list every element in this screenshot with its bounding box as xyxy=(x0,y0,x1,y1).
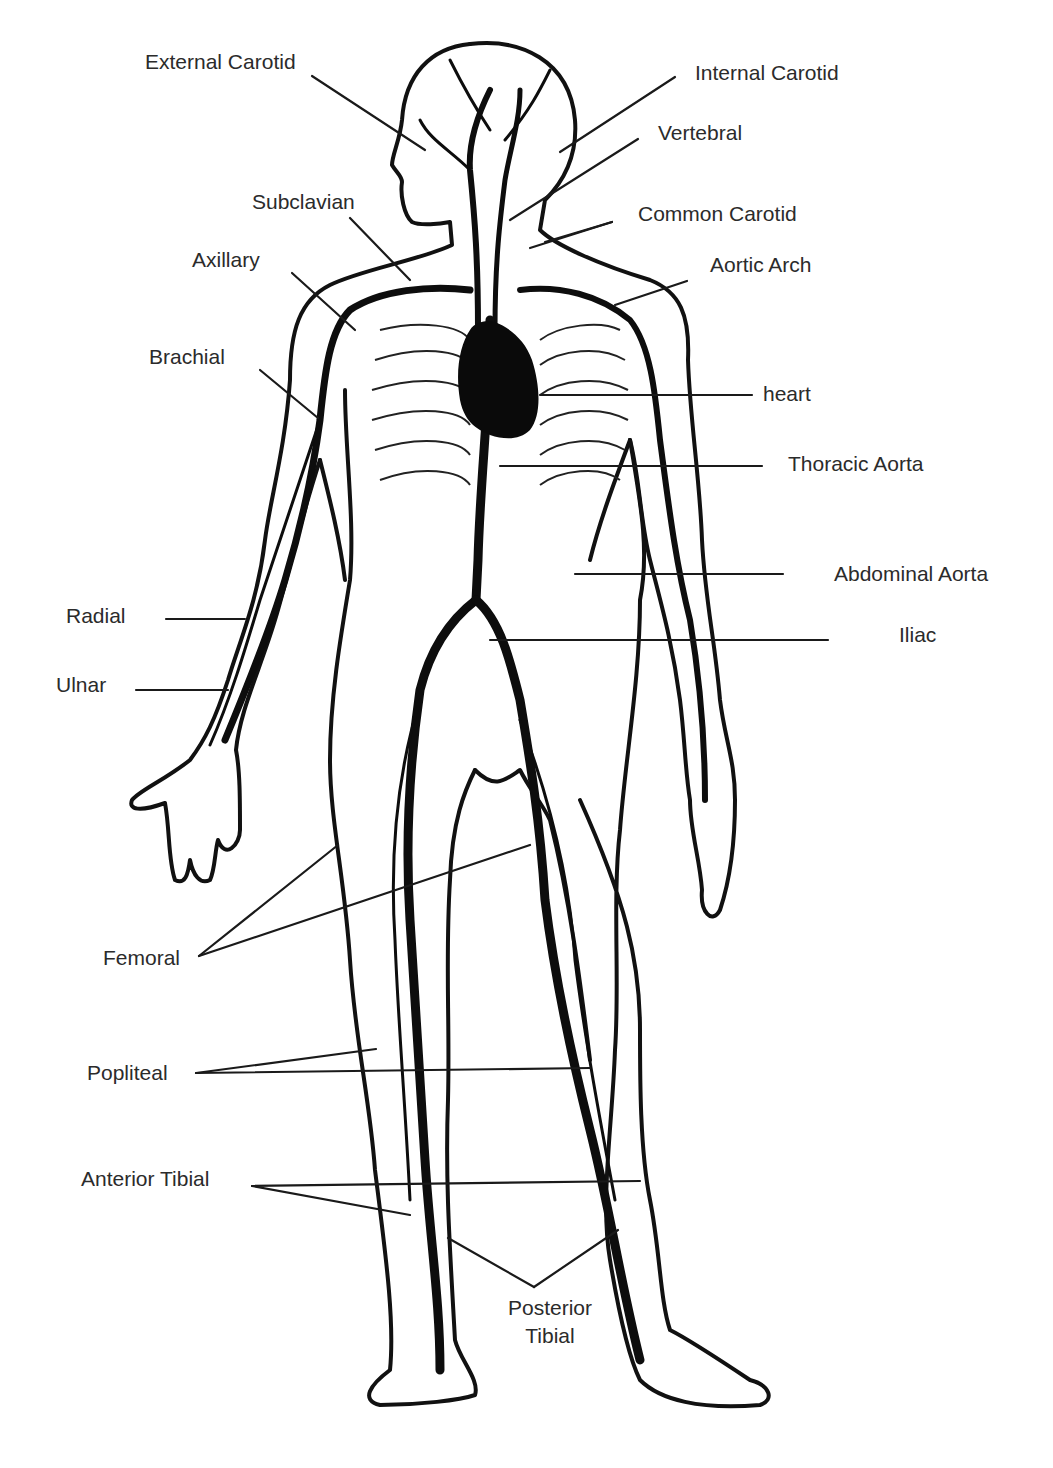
label-femoral: Femoral xyxy=(103,947,180,968)
label-subclavian: Subclavian xyxy=(252,191,355,212)
label-axillary: Axillary xyxy=(192,249,260,270)
label-aortic-arch: Aortic Arch xyxy=(710,254,812,275)
label-vertebral: Vertebral xyxy=(658,122,742,143)
leader-line-popliteal xyxy=(196,1049,376,1073)
label-heart: heart xyxy=(763,383,811,404)
leader-line-posterior-tibial xyxy=(448,1238,534,1287)
leader-line-axillary xyxy=(292,273,355,330)
leader-line-anterior-tibial xyxy=(252,1186,410,1215)
label-ulnar: Ulnar xyxy=(56,674,106,695)
label-internal-carotid: Internal Carotid xyxy=(695,62,839,83)
leader-line-posterior-tibial xyxy=(534,1230,618,1287)
label-anterior-tibial: Anterior Tibial xyxy=(81,1168,209,1189)
leader-line-subclavian xyxy=(350,218,410,280)
label-thoracic-aorta: Thoracic Aorta xyxy=(788,453,923,474)
body-illustration xyxy=(0,0,1053,1468)
label-iliac: Iliac xyxy=(899,624,936,645)
label-posterior-tibial-line1: Posterior xyxy=(503,1294,597,1322)
leader-line-femoral xyxy=(199,845,338,956)
leader-line-popliteal xyxy=(196,1068,590,1073)
arterial-system-diagram: External Carotid Internal Carotid Verteb… xyxy=(0,0,1053,1468)
label-posterior-tibial-line2: Tibial xyxy=(503,1322,597,1350)
label-common-carotid: Common Carotid xyxy=(638,203,797,224)
leader-line-common-carotid xyxy=(545,222,612,242)
label-external-carotid: External Carotid xyxy=(145,51,296,72)
label-radial: Radial xyxy=(66,605,126,626)
label-brachial: Brachial xyxy=(149,346,225,367)
leader-line-femoral xyxy=(199,845,530,956)
label-abdominal-aorta: Abdominal Aorta xyxy=(834,563,988,584)
heart-shape xyxy=(458,321,538,438)
label-popliteal: Popliteal xyxy=(87,1062,168,1083)
label-posterior-tibial: Posterior Tibial xyxy=(503,1294,597,1350)
